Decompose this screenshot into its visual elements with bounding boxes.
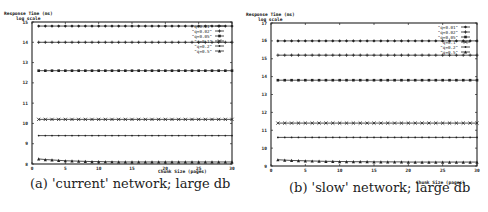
x-axis-label: Chunk Size (pages) (158, 169, 207, 174)
figure-caption: (a) 'current' network; large db (30, 176, 230, 191)
svg-text:12: 12 (23, 80, 29, 85)
svg-text:14: 14 (23, 40, 29, 45)
series-line (38, 135, 233, 137)
series-line (37, 118, 234, 121)
svg-text:0: 0 (31, 166, 34, 171)
svg-text:16: 16 (262, 38, 268, 43)
series-line (277, 137, 478, 139)
series-line (37, 69, 233, 72)
svg-text:"q=0.5": "q=0.5" (194, 49, 212, 54)
svg-text:15: 15 (23, 20, 29, 25)
svg-text:30: 30 (229, 166, 235, 171)
svg-text:8: 8 (25, 162, 28, 167)
svg-text:17: 17 (262, 21, 268, 26)
svg-text:5: 5 (64, 166, 67, 171)
chart-panel-a: Response Time (ms) log scale 05101520253… (0, 0, 244, 212)
svg-text:13: 13 (262, 92, 268, 97)
svg-text:14: 14 (262, 74, 268, 79)
svg-text:15: 15 (262, 56, 268, 61)
svg-text:10: 10 (23, 121, 29, 126)
series-line (37, 157, 234, 163)
svg-text:12: 12 (262, 110, 268, 115)
legend: "q=0.01""q=0.02""q=0.05""q=0.1""q=0.2""q… (438, 25, 470, 55)
legend: "q=0.01""q=0.02""q=0.05""q=0.1""q=0.2""q… (192, 24, 224, 54)
series-line (277, 79, 479, 82)
svg-text:25: 25 (440, 168, 446, 173)
svg-text:9: 9 (25, 141, 28, 146)
svg-text:30: 30 (474, 168, 480, 173)
svg-text:9: 9 (264, 164, 267, 169)
svg-text:10: 10 (96, 166, 102, 171)
svg-text:11: 11 (23, 101, 29, 106)
svg-text:20: 20 (406, 168, 412, 173)
svg-text:0: 0 (270, 168, 273, 173)
svg-text:13: 13 (23, 60, 29, 65)
series-line (276, 158, 478, 164)
series-line (276, 122, 478, 125)
svg-text:10: 10 (262, 146, 268, 151)
chart-panel-b: Response Time (ms) log scale 05101520253… (244, 0, 488, 212)
figure-caption: (b) 'slow' network; large db (289, 180, 470, 195)
svg-text:11: 11 (262, 128, 268, 133)
svg-text:5: 5 (304, 168, 307, 173)
svg-text:"q=0.5": "q=0.5" (440, 50, 458, 55)
svg-text:15: 15 (129, 166, 135, 171)
svg-text:15: 15 (371, 168, 377, 173)
svg-text:10: 10 (337, 168, 343, 173)
